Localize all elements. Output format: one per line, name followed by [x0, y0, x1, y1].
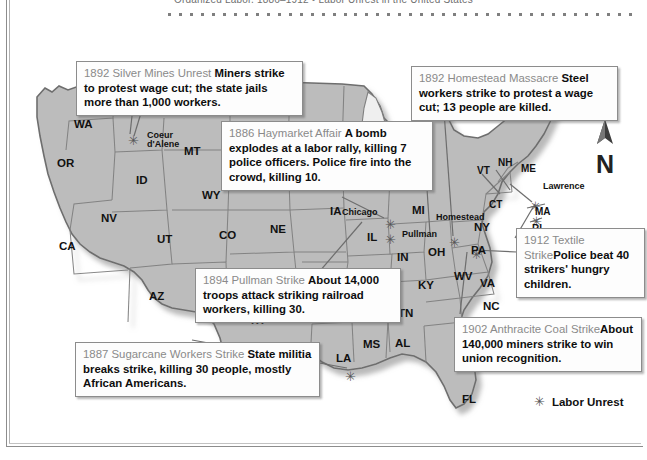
dot-rule-dot	[354, 13, 357, 16]
dot-rule-dot	[541, 13, 544, 16]
dot-rule-dot	[344, 13, 347, 16]
state-label-vt: VT	[477, 166, 490, 177]
state-label-ky: KY	[418, 279, 434, 291]
homestead-marker: ✳	[449, 236, 460, 249]
callout-pullman-strike: 1894 Pullman Strike About 14,000 troops …	[195, 268, 401, 323]
pullman-marker: ✳	[385, 233, 396, 246]
state-label-ia: IA	[330, 205, 342, 217]
dot-rule-dot	[486, 13, 489, 16]
state-label-ma: MA	[535, 207, 551, 218]
dot-rule-dot	[223, 13, 226, 16]
dot-rule-dot	[289, 13, 292, 16]
state-label-mt: MT	[184, 145, 201, 157]
state-label-il: IL	[367, 231, 377, 243]
state-label-wa: WA	[74, 118, 93, 130]
legend-label: Labor Unrest	[552, 396, 624, 408]
dot-rule-dot	[530, 13, 533, 16]
decorative-dot-rule	[168, 13, 632, 17]
state-label-la: LA	[336, 352, 351, 364]
callout-title-anthracite-coal-strike: 1902 Anthracite Coal Strike	[462, 323, 600, 335]
page-frame-bottom-rule-2	[9, 443, 641, 444]
state-label-az: AZ	[149, 290, 164, 302]
running-head: Organized Labor, 1886–1912 • Labor Unres…	[0, 0, 647, 3]
map-legend: ✳ Labor Unrest	[534, 395, 623, 408]
city-label-coeur-d-alene: Coeur d'Alene	[147, 131, 179, 150]
state-label-or: OR	[57, 157, 74, 169]
callout-silver-mines-unrest: 1892 Silver Mines Unrest Miners strike t…	[76, 61, 303, 116]
page-frame-bottom-rule	[7, 446, 643, 447]
city-label-pullman: Pullman	[402, 230, 437, 239]
city-label-homestead: Homestead	[436, 213, 485, 222]
callout-anthracite-coal-strike: 1902 Anthracite Coal StrikeAbout 140,000…	[454, 317, 642, 372]
dot-rule-dot	[453, 13, 456, 16]
callout-title-silver-mines-unrest: 1892 Silver Mines Unrest	[84, 67, 214, 79]
dot-rule-dot	[387, 13, 390, 16]
dot-rule-dot	[574, 13, 577, 16]
dot-rule-dot	[618, 13, 621, 16]
dot-rule-dot	[201, 13, 204, 16]
dot-rule-dot	[333, 13, 336, 16]
state-label-me: ME	[521, 164, 536, 175]
dot-rule-dot	[596, 13, 599, 16]
callout-homestead-massacre: 1892 Homestead Massacre Steel workers st…	[411, 66, 618, 121]
chicago-marker: ✳	[385, 218, 396, 231]
dot-rule-dot	[168, 13, 171, 16]
dot-rule-dot	[552, 13, 555, 16]
state-label-mi: MI	[412, 204, 425, 216]
dot-rule-dot	[431, 13, 434, 16]
dot-rule-dot	[475, 13, 478, 16]
dot-rule-dot	[179, 13, 182, 16]
state-label-va: VA	[480, 277, 495, 289]
coeur-dalene-marker: ✳	[128, 134, 139, 147]
state-label-nv: NV	[101, 212, 117, 224]
dot-rule-dot	[420, 13, 423, 16]
dot-rule-dot	[190, 13, 193, 16]
callout-sugarcane-workers-strike: 1887 Sugarcane Workers Strike State mili…	[75, 342, 320, 397]
state-label-id: ID	[136, 174, 148, 186]
dot-rule-dot	[278, 13, 281, 16]
state-label-in: IN	[397, 251, 409, 263]
dot-rule-dot	[267, 13, 270, 16]
dot-rule-dot	[365, 13, 368, 16]
labor-unrest-icon: ✳	[534, 395, 545, 408]
dot-rule-dot	[376, 13, 379, 16]
dot-rule-dot	[398, 13, 401, 16]
dot-rule-dot	[322, 13, 325, 16]
callout-title-homestead-massacre: 1892 Homestead Massacre	[419, 72, 561, 84]
dot-rule-dot	[234, 13, 237, 16]
north-arrow-icon: N	[590, 118, 620, 175]
louisiana-marker: ✳	[345, 370, 356, 383]
dot-rule-dot	[519, 13, 522, 16]
north-arrow-glyph	[593, 118, 617, 150]
dot-rule-dot	[300, 13, 303, 16]
dot-rule-dot	[585, 13, 588, 16]
state-label-ny: NY	[474, 221, 490, 233]
state-label-ca: CA	[59, 240, 76, 252]
labor-unrest-map: ✳✳✳✳✳✳✳✳ WAORCANVIDMTWYUTCOAZNMTXSDNEMNI…	[12, 22, 640, 442]
dot-rule-dot	[409, 13, 412, 16]
state-label-ms: MS	[363, 338, 380, 350]
state-label-wv: WV	[454, 270, 473, 282]
state-label-nh: NH	[498, 158, 512, 169]
dot-rule-dot	[464, 13, 467, 16]
dot-rule-dot	[629, 13, 632, 16]
dot-rule-dot	[497, 13, 500, 16]
state-label-ne: NE	[270, 223, 286, 235]
callout-textile-strike: 1912 Textile StrikePolice beat 40 strike…	[516, 228, 645, 298]
page-frame-left-rule-2	[9, 0, 10, 444]
state-label-oh: OH	[428, 246, 445, 258]
dot-rule-dot	[311, 13, 314, 16]
state-label-al: AL	[395, 337, 410, 349]
dot-rule-dot	[508, 13, 511, 16]
dot-rule-dot	[563, 13, 566, 16]
callout-title-sugarcane-workers-strike: 1887 Sugarcane Workers Strike	[83, 348, 247, 360]
dot-rule-dot	[212, 13, 215, 16]
state-label-nc: NC	[483, 300, 500, 312]
state-label-co: CO	[219, 229, 236, 241]
state-label-ct: CT	[489, 200, 502, 211]
dot-rule-dot	[245, 13, 248, 16]
dot-rule-dot	[607, 13, 610, 16]
dot-rule-dot	[256, 13, 259, 16]
state-label-wy: WY	[202, 189, 221, 201]
state-label-fl: FL	[462, 393, 476, 405]
